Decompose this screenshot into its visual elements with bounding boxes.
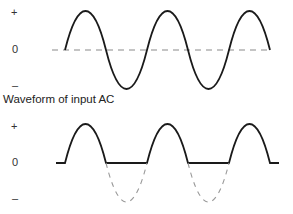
suppressed-negative-half-1: [106, 163, 147, 202]
suppressed-negative-half-2: [188, 163, 229, 202]
rectified-output-wave: [56, 124, 279, 163]
waveform-diagram: [0, 0, 293, 214]
